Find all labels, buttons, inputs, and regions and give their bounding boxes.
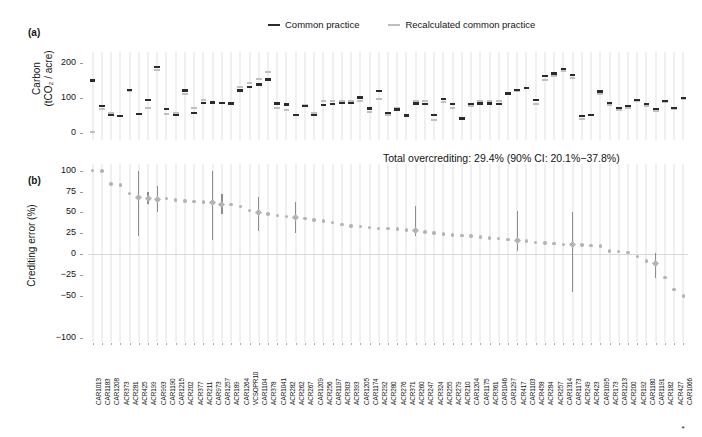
x-axis-label: CAR1180 <box>649 378 656 405</box>
common-practice-marker <box>671 107 677 109</box>
common-practice-marker <box>588 114 594 116</box>
common-practice-marker <box>533 99 539 101</box>
panel-a-gridstrip <box>267 52 269 140</box>
panel-b-gridstrip <box>258 164 260 342</box>
x-axis-tick <box>130 343 131 345</box>
panel-a-gridstrip <box>442 52 444 140</box>
panel-a-gridstrip <box>562 52 564 140</box>
crediting-error-point <box>276 214 279 217</box>
crediting-error-point <box>534 241 537 244</box>
panel-a-gridstrip <box>581 52 583 140</box>
panel-a-gridstrip <box>101 52 103 140</box>
x-axis-tick <box>434 343 435 345</box>
x-axis-label: CAR1183 <box>104 378 111 405</box>
recalculated-common-practice-marker <box>616 109 622 111</box>
legend-label-recalculated-common-practice: Recalculated common practice <box>405 19 535 30</box>
common-practice-marker <box>653 108 659 110</box>
x-axis-tick <box>323 343 324 345</box>
crediting-error-point <box>552 242 555 245</box>
panel-a-ytick-label: 0 <box>40 127 76 137</box>
panel-a-tag: (a) <box>28 27 40 38</box>
crediting-error-point <box>569 241 576 248</box>
panel-b-gridstrip <box>590 164 592 342</box>
x-axis-label: CAR1104 <box>261 378 268 405</box>
legend-label-common-practice: Common practice <box>285 19 359 30</box>
common-practice-marker <box>284 103 290 105</box>
x-axis-label: CAR1013 <box>95 378 102 405</box>
crediting-error-point <box>303 217 306 220</box>
panel-b-ytick-mark <box>80 233 83 234</box>
panel-a-ytick-mark <box>80 98 83 99</box>
crediting-error-point <box>626 251 629 254</box>
x-axis-label: ACR282 <box>289 381 296 405</box>
x-axis-label: CAR1208 <box>113 378 120 405</box>
panel-b-gridstrip <box>110 164 112 342</box>
x-axis-label: ACR427 <box>677 381 684 405</box>
panel-b-ytick-label: 25 <box>34 227 76 237</box>
common-practice-marker <box>191 112 197 114</box>
panel-a-gridstrip <box>470 52 472 140</box>
common-practice-marker <box>551 72 557 74</box>
crediting-error-point <box>229 203 232 206</box>
crediting-error-point <box>608 249 611 252</box>
x-axis-label: ACR262 <box>298 381 305 405</box>
panel-b-gridstrip <box>350 164 352 342</box>
crediting-error-point <box>349 224 352 227</box>
crediting-error-point <box>192 200 195 203</box>
recalculated-common-practice-marker <box>551 75 557 77</box>
panel-b-ytick-mark <box>80 254 83 255</box>
x-axis-tick <box>397 343 398 345</box>
common-practice-marker <box>201 102 207 104</box>
panel-a-ytick-mark <box>80 133 83 134</box>
recalculated-common-practice-marker <box>570 77 576 79</box>
recalculated-common-practice-marker <box>441 101 447 103</box>
common-practice-marker <box>385 112 391 114</box>
common-practice-marker <box>597 90 603 92</box>
x-axis-tick <box>619 343 620 345</box>
common-practice-marker <box>164 108 170 110</box>
x-axis-label: CAR1191 <box>658 378 665 405</box>
x-axis-tick <box>360 343 361 345</box>
recalculated-common-practice-marker <box>164 113 170 115</box>
crediting-error-point <box>119 183 122 186</box>
common-practice-marker <box>274 102 280 104</box>
x-axis-label: ACR458 <box>538 381 545 405</box>
panel-a-gridstrip <box>655 52 657 140</box>
panel-b-gridstrip <box>405 164 407 342</box>
common-practice-marker <box>256 83 262 85</box>
common-practice-marker <box>311 114 317 116</box>
crediting-error-point <box>412 227 419 234</box>
panel-a-gridstrip <box>544 52 546 140</box>
crediting-error-point <box>514 237 521 244</box>
x-axis-label: ACR260 <box>418 381 425 405</box>
x-axis-label: CAR1297 <box>510 378 517 405</box>
crediting-error-point <box>144 195 151 202</box>
panel-b-gridstrip <box>452 164 454 342</box>
panel-a-gridstrip <box>295 52 297 140</box>
x-axis-tick <box>203 343 204 345</box>
crediting-error-point <box>292 214 299 221</box>
x-axis-label: ACR189 <box>233 381 240 405</box>
panel-b-gridstrip <box>369 164 371 342</box>
panel-b-plot <box>88 164 688 342</box>
panel-a-ylabel-line2: (tCO₂ / acre) <box>43 39 54 119</box>
panel-b-gridstrip <box>535 164 537 342</box>
x-axis-tick <box>388 343 389 345</box>
x-axis-tick <box>286 343 287 345</box>
recalculated-common-practice-marker <box>237 86 243 88</box>
panel-a-plot <box>88 52 688 140</box>
panel-a-gridstrip <box>92 52 94 140</box>
x-axis-label: CAR1190 <box>169 378 176 405</box>
recalculated-common-practice-marker <box>247 82 253 84</box>
panel-b-ytick-label: −100 <box>34 332 76 342</box>
common-practice-marker <box>394 108 400 110</box>
panel-a-gridstrip <box>599 52 601 140</box>
panel-a-gridstrip <box>110 52 112 140</box>
panel-b-ytick-label: 75 <box>34 186 76 196</box>
common-practice-marker <box>450 103 456 105</box>
recalculated-common-practice-marker <box>376 98 382 100</box>
x-axis-label: ACR324 <box>437 381 444 405</box>
x-axis-label: ACR256 <box>326 381 333 405</box>
crediting-error-point <box>109 182 112 185</box>
common-practice-marker <box>431 114 437 116</box>
